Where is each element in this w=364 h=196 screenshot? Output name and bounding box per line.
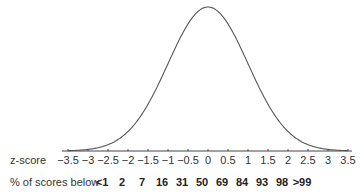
percentile-value: 98 [276, 176, 288, 188]
x-tick-label: 0.5 [220, 154, 235, 166]
x-tick-label: 1.5 [260, 154, 275, 166]
percentile-value: 7 [139, 176, 145, 188]
x-tick-label: −3.5 [57, 154, 79, 166]
x-tick-label: 2.5 [300, 154, 315, 166]
x-tick-label: 1 [245, 154, 251, 166]
percentile-value: 16 [156, 176, 168, 188]
percentile-value: 93 [256, 176, 268, 188]
x-tick-label: −1.5 [137, 154, 159, 166]
normal-distribution-chart [0, 0, 364, 160]
zscore-row-label: z-score [10, 154, 46, 166]
percent-row-label: % of scores below [10, 176, 99, 188]
bell-curve [68, 7, 348, 151]
x-tick-label: −3 [82, 154, 95, 166]
x-tick-label: −2.5 [97, 154, 119, 166]
percentile-value: <1 [96, 176, 109, 188]
percentile-value: >99 [293, 176, 312, 188]
x-tick-label: 2 [285, 154, 291, 166]
x-tick-label: 3 [325, 154, 331, 166]
percentile-value: 84 [236, 176, 248, 188]
x-tick-label: 3.5 [340, 154, 355, 166]
x-tick-label: −0.5 [177, 154, 199, 166]
percentile-value: 31 [176, 176, 188, 188]
percentile-value: 2 [119, 176, 125, 188]
percentile-value: 50 [196, 176, 208, 188]
x-tick-label: −2 [122, 154, 135, 166]
x-tick-label: 0 [205, 154, 211, 166]
percentile-value: 69 [216, 176, 228, 188]
x-tick-label: −1 [162, 154, 175, 166]
